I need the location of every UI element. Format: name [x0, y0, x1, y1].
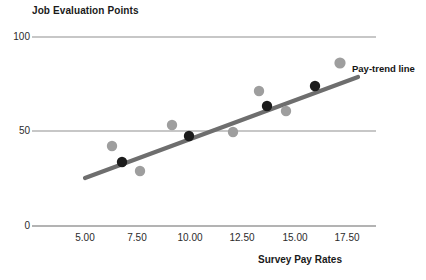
- data-point-trend: [310, 81, 320, 91]
- data-point-survey: [167, 120, 177, 130]
- x-axis-tick-17-5: 17.50: [327, 232, 367, 243]
- data-point-survey: [228, 127, 238, 137]
- x-axis-title: Survey Pay Rates: [258, 254, 342, 265]
- data-point-trend: [262, 101, 272, 111]
- data-point-survey: [281, 106, 291, 116]
- x-axis-tick-12-5: 12.50: [222, 232, 262, 243]
- x-axis-tick-10: 10.00: [170, 232, 210, 243]
- x-axis-tick-15: 15.00: [275, 232, 315, 243]
- data-point-trend: [117, 157, 127, 167]
- x-axis-tick-5: 5.00: [65, 232, 105, 243]
- data-point-survey: [107, 141, 117, 151]
- x-axis-tick-7-5: 7.50: [117, 232, 157, 243]
- data-point-survey: [334, 57, 345, 68]
- data-point-trend: [184, 131, 194, 141]
- data-point-survey: [254, 86, 264, 96]
- data-point-survey: [135, 166, 145, 176]
- pay-trend-line-label: Pay-trend line: [352, 63, 415, 74]
- chart-container: Job Evaluation Points 100 50 0 Pay-trend…: [0, 0, 426, 280]
